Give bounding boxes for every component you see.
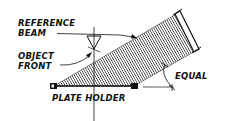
label-object: OBJECT [18,52,54,61]
label-front: FRONT [18,62,52,71]
label-plate-holder: PLATE HOLDER [52,94,126,103]
label-beam: BEAM [18,29,46,38]
label-reference: REFERENCE [18,19,75,28]
object-front-leader [60,55,90,65]
label-equal: EQUAL [175,72,208,81]
